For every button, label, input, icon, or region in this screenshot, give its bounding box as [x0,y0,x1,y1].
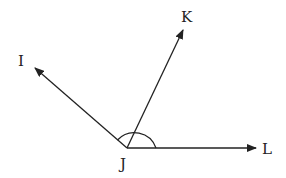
ray-jk [127,30,183,148]
label-i: I [18,52,24,70]
ray-ji [35,68,127,148]
angle-diagram: I K J L [0,0,286,178]
angle-arc [118,133,157,148]
label-k: K [181,8,193,26]
label-l: L [262,140,272,158]
label-j: J [118,155,126,173]
